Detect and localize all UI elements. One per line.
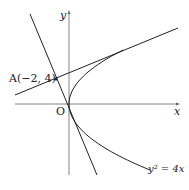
y-axis-label: y	[60, 10, 66, 21]
point-a-label: A(−2, 4)	[9, 73, 56, 84]
diagram: y x O A(−2, 4) y² = 4x	[0, 0, 189, 190]
y-axis-arrow-icon	[68, 10, 71, 14]
curve-label: y² = 4x	[148, 164, 184, 174]
origin-label: O	[56, 106, 65, 117]
diagram-canvas	[0, 0, 189, 190]
x-axis-label: x	[174, 106, 180, 117]
tangent-line-lower	[30, 14, 97, 175]
